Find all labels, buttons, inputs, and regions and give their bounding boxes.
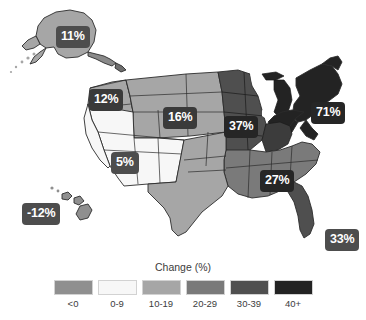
legend-label-0-9: 0-9	[110, 299, 124, 309]
map-label-hawaii: -12%	[22, 203, 60, 225]
legend-item-0-9: 0-9	[98, 280, 137, 309]
legend-item-40plus: 40+	[274, 280, 313, 309]
choropleth-map-figure: 11% 12% 16% 37% 71% 5% 27% -12% 33% Chan…	[0, 0, 366, 320]
legend-label-30-39: 30-39	[237, 299, 261, 309]
map-label-northeast: 71%	[311, 102, 345, 124]
legend-label-lt0: <0	[68, 299, 79, 309]
map-label-alaska: 11%	[56, 26, 90, 48]
map-label-pacific-northwest: 12%	[89, 89, 123, 111]
legend-swatch-40plus	[274, 280, 313, 295]
legend-swatch-10-19	[142, 280, 181, 295]
legend-item-lt0: <0	[54, 280, 93, 309]
legend-item-10-19: 10-19	[142, 280, 181, 309]
map-label-mountain-west: 5%	[111, 152, 139, 174]
legend-swatch-30-39	[230, 280, 269, 295]
legend-title: Change (%)	[0, 261, 366, 273]
legend-item-20-29: 20-29	[186, 280, 225, 309]
map-label-florida: 33%	[325, 229, 359, 251]
map-label-northern-plains: 16%	[163, 107, 197, 129]
legend-label-40plus: 40+	[285, 299, 301, 309]
legend-swatch-lt0	[54, 280, 93, 295]
map-label-upper-midwest: 37%	[224, 116, 258, 138]
map-label-southeast: 27%	[260, 170, 294, 192]
us-map: 11% 12% 16% 37% 71% 5% 27% -12% 33%	[0, 0, 366, 258]
legend-swatch-0-9	[98, 280, 137, 295]
legend-swatch-20-29	[186, 280, 225, 295]
legend-items: <0 0-9 10-19 20-29 30-39 40+	[0, 280, 366, 309]
legend-label-10-19: 10-19	[149, 299, 173, 309]
legend: Change (%) <0 0-9 10-19 20-29 30-39	[0, 258, 366, 320]
legend-item-30-39: 30-39	[230, 280, 269, 309]
legend-label-20-29: 20-29	[193, 299, 217, 309]
